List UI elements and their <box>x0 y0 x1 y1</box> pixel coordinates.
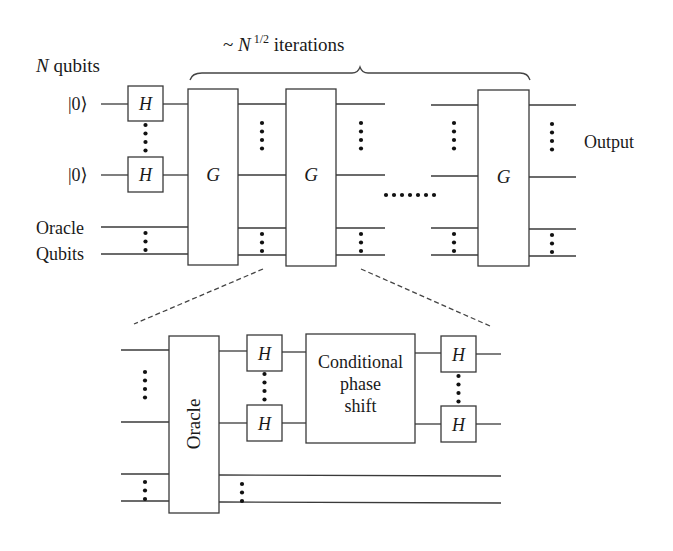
ellipsis-dot <box>143 488 147 492</box>
ellipsis-dot <box>359 232 363 236</box>
ellipsis-dot <box>260 121 264 125</box>
ellipsis-dot <box>456 391 460 395</box>
ellipsis-dot <box>260 240 264 244</box>
phase-shift-label-line2: phase <box>340 374 381 394</box>
ellipsis-dot <box>452 232 456 236</box>
hadamard-label: H <box>138 94 153 114</box>
ellipsis-dot <box>550 250 554 254</box>
ellipsis-dot <box>456 399 460 403</box>
hadamard-label: H <box>257 414 272 434</box>
ellipsis-dot <box>359 240 363 244</box>
ellipsis-dot <box>260 232 264 236</box>
ellipsis-dot <box>550 139 554 143</box>
grover-gate-1: G <box>188 89 238 265</box>
ellipsis-dot <box>143 131 147 135</box>
ellipsis-dot <box>143 148 147 152</box>
ellipsis-dot <box>550 147 554 151</box>
grover-gate-3: G <box>478 90 529 266</box>
ellipsis-dot <box>550 122 554 126</box>
output-label: Output <box>584 132 634 152</box>
ellipsis-dot <box>550 241 554 245</box>
ellipsis-dot <box>424 193 428 197</box>
hadamard-label: H <box>451 345 466 365</box>
ellipsis-dot <box>359 249 363 253</box>
ellipsis-dot <box>240 490 244 494</box>
ellipsis-dot <box>143 140 147 144</box>
ellipsis-dot <box>456 374 460 378</box>
ellipsis-dot <box>143 378 147 382</box>
ellipsis-dot <box>143 248 147 252</box>
ellipsis-dot <box>452 138 456 142</box>
hadamard-label: H <box>138 165 153 185</box>
grover-gate-label: G <box>304 164 318 185</box>
ellipsis-dot <box>143 370 147 374</box>
ellipsis-dot <box>262 389 266 393</box>
wire <box>219 475 501 476</box>
ellipsis-dot <box>550 233 554 237</box>
ellipsis-dot <box>359 146 363 150</box>
grover-gate-label: G <box>497 166 511 187</box>
ellipsis-dot <box>260 249 264 253</box>
ellipsis-dot <box>416 193 420 197</box>
oracle-gate-label: Oracle <box>183 399 204 450</box>
ellipsis-dot <box>260 138 264 142</box>
hadamard-label: H <box>451 415 466 435</box>
ellipsis-dot <box>452 249 456 253</box>
hadamard-gate-top-1: H <box>128 86 163 121</box>
ellipsis-dot <box>359 129 363 133</box>
iterations-prefix: ~ <box>223 34 238 55</box>
ellipsis-dot <box>240 499 244 503</box>
hadamard-gate-left-2: H <box>247 405 282 441</box>
ellipsis-dot <box>260 146 264 150</box>
oracle-label-line2: Qubits <box>36 244 84 264</box>
conditional-phase-shift-gate: Conditional phase shift <box>306 334 415 443</box>
ellipsis-dot <box>452 129 456 133</box>
hadamard-gate-left-1: H <box>247 335 282 371</box>
n-qubits-label: N qubits <box>35 55 100 76</box>
zoom-line-right <box>361 269 490 326</box>
ellipsis-dot <box>550 130 554 134</box>
ellipsis-dot <box>384 193 388 197</box>
grover-gate-label: G <box>206 164 220 185</box>
iterations-suffix: iterations <box>269 34 344 55</box>
iterations-brace <box>190 67 530 80</box>
ellipsis-dot <box>143 497 147 501</box>
ellipsis-dot <box>359 121 363 125</box>
ellipsis-dot <box>143 395 147 399</box>
phase-shift-label-line1: Conditional <box>318 352 403 372</box>
phase-shift-label-line3: shift <box>344 396 376 416</box>
grover-gate-2: G <box>286 89 336 266</box>
ellipsis-dot <box>262 372 266 376</box>
iterations-exponent: 1/2 <box>254 32 269 46</box>
ellipsis-dot <box>452 146 456 150</box>
iterations-label: ~ N1/2 iterations <box>223 32 345 55</box>
ellipsis-dot <box>400 193 404 197</box>
hadamard-label: H <box>257 344 272 364</box>
iterations-variable: N <box>237 34 252 55</box>
grover-circuit-diagram: ~ N1/2 iterations N qubits |0⟩ |0⟩ Oracl… <box>0 0 673 551</box>
hadamard-gate-right-1: H <box>441 336 476 372</box>
ellipsis-dot <box>456 382 460 386</box>
ellipsis-dot <box>143 239 147 243</box>
input-state-1: |0⟩ <box>68 94 88 114</box>
oracle-label-line1: Oracle <box>36 218 84 238</box>
wire <box>219 502 501 503</box>
ellipsis-dot <box>143 480 147 484</box>
ellipsis-dot <box>143 387 147 391</box>
ellipsis-dot <box>359 138 363 142</box>
ellipsis-dot <box>143 231 147 235</box>
horizontal-ellipsis <box>384 193 436 197</box>
input-state-2: |0⟩ <box>68 165 88 185</box>
ellipsis-dot <box>240 482 244 486</box>
zoom-line-left <box>134 269 263 324</box>
oracle-gate: Oracle <box>169 336 219 513</box>
ellipsis-dot <box>262 380 266 384</box>
ellipsis-dot <box>432 193 436 197</box>
ellipsis-dot <box>452 121 456 125</box>
hadamard-gate-right-2: H <box>441 406 476 442</box>
ellipsis-dot <box>408 193 412 197</box>
ellipsis-dot <box>143 123 147 127</box>
ellipsis-dot <box>260 129 264 133</box>
ellipsis-dot <box>262 397 266 401</box>
ellipsis-dot <box>452 240 456 244</box>
